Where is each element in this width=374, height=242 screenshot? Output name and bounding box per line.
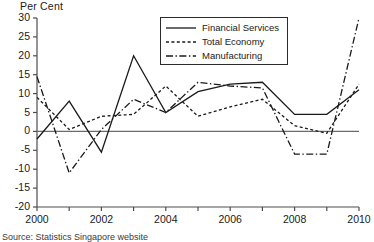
legend-key-solid-icon	[165, 22, 197, 34]
legend-label-manufacturing: Manufacturing	[202, 50, 262, 62]
source-note: Source: Statistics Singapore website	[2, 232, 148, 242]
x-tick-2002: 2002	[81, 213, 121, 225]
y-tick-5: 5	[4, 106, 30, 118]
legend-label-total-economy: Total Economy	[202, 36, 264, 48]
x-tick-2010: 2010	[339, 213, 374, 225]
y-tick--5: -5	[4, 143, 30, 155]
x-tick-2000: 2000	[17, 213, 57, 225]
y-tick-10: 10	[4, 87, 30, 99]
y-tick--15: -15	[4, 181, 30, 193]
y-tick-15: 15	[4, 68, 30, 80]
y-tick-25: 25	[4, 30, 30, 42]
y-tick-20: 20	[4, 49, 30, 61]
legend-key-dotted-icon	[165, 36, 197, 48]
legend-label-financial-services: Financial Services	[202, 22, 279, 34]
y-tick-30: 30	[4, 11, 30, 23]
legend-key-dashdot-icon	[165, 50, 197, 62]
y-tick--20: -20	[4, 200, 30, 212]
y-tick-0: 0	[4, 124, 30, 136]
chart-legend: Financial Services Total Economy Manufac…	[160, 17, 288, 65]
legend-item-financial-services: Financial Services	[165, 21, 283, 35]
x-tick-2006: 2006	[210, 213, 250, 225]
x-tick-2008: 2008	[275, 213, 315, 225]
legend-item-total-economy: Total Economy	[165, 35, 283, 49]
legend-item-manufacturing: Manufacturing	[165, 49, 283, 63]
y-tick--10: -10	[4, 162, 30, 174]
x-tick-2004: 2004	[146, 213, 186, 225]
